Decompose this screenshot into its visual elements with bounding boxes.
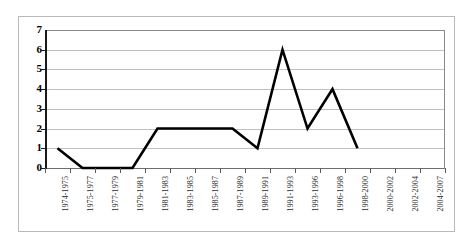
- gridline-y-3: [45, 109, 445, 110]
- gridline-y-2: [45, 129, 445, 130]
- y-tick-label-2: 2: [22, 123, 42, 134]
- x-tick-mark-14: [395, 168, 396, 173]
- y-tick-label-0: 0: [22, 162, 42, 173]
- y-tick-mark-3: [41, 109, 46, 110]
- x-tick-label-1993-1996: 1993-1996: [311, 176, 320, 212]
- x-tick-label-1977-1979: 1977-1979: [111, 176, 120, 212]
- gridline-y-1: [45, 148, 445, 149]
- x-tick-label-1987-1989: 1987-1989: [236, 176, 245, 212]
- x-tick-label-2004-2007: 2004-2007: [436, 176, 445, 212]
- y-tick-label-4: 4: [22, 83, 42, 94]
- gridline-y-7: [45, 30, 445, 31]
- x-tick-label-1985-1987: 1985-1987: [211, 176, 220, 212]
- x-tick-label-2002-2004: 2002-2004: [411, 176, 420, 212]
- x-tick-mark-1: [70, 168, 71, 173]
- y-tick-mark-2: [41, 129, 46, 130]
- x-tick-mark-end: [445, 168, 446, 173]
- y-tick-mark-5: [41, 69, 46, 70]
- x-tick-label-1981-1983: 1981-1983: [161, 176, 170, 212]
- y-tick-label-6: 6: [22, 44, 42, 55]
- line-chart-figure: 01234567 1974-19751975-19771977-19791979…: [0, 0, 474, 244]
- y-tick-mark-1: [41, 148, 46, 149]
- x-tick-mark-15: [420, 168, 421, 173]
- x-tick-label-1998-2000: 1998-2000: [361, 176, 370, 212]
- x-tick-label-1991-1993: 1991-1993: [286, 176, 295, 212]
- x-tick-mark-2: [95, 168, 96, 173]
- gridline-y-5: [45, 69, 445, 70]
- y-tick-mark-6: [41, 50, 46, 51]
- x-tick-label-1989-1991: 1989-1991: [261, 176, 270, 212]
- y-tick-label-7: 7: [22, 24, 42, 35]
- x-tick-label-1996-1998: 1996-1998: [336, 176, 345, 212]
- x-tick-label-1979-1981: 1979-1981: [136, 176, 145, 212]
- x-tick-label-1975-1977: 1975-1977: [86, 176, 95, 212]
- gridline-y-4: [45, 89, 445, 90]
- x-tick-label-2000-2002: 2000-2002: [386, 176, 395, 212]
- plot-area: [45, 30, 445, 168]
- x-tick-mark-9: [270, 168, 271, 173]
- x-tick-mark-10: [295, 168, 296, 173]
- x-tick-label-1983-1985: 1983-1985: [186, 176, 195, 212]
- plot-right-edge: [444, 30, 445, 169]
- x-tick-mark-4: [145, 168, 146, 173]
- x-tick-label-1974-1975: 1974-1975: [61, 176, 70, 212]
- gridline-y-6: [45, 50, 445, 51]
- y-tick-mark-4: [41, 89, 46, 90]
- y-tick-label-5: 5: [22, 63, 42, 74]
- x-tick-mark-12: [345, 168, 346, 173]
- x-tick-mark-8: [245, 168, 246, 173]
- x-tick-mark-7: [220, 168, 221, 173]
- y-tick-label-3: 3: [22, 103, 42, 114]
- x-tick-mark-11: [320, 168, 321, 173]
- x-tick-mark-0: [45, 168, 46, 173]
- x-tick-mark-5: [170, 168, 171, 173]
- x-tick-mark-3: [120, 168, 121, 173]
- y-tick-label-1: 1: [22, 142, 42, 153]
- x-tick-mark-6: [195, 168, 196, 173]
- x-tick-mark-13: [370, 168, 371, 173]
- y-axis-tick-labels: 01234567: [18, 0, 42, 244]
